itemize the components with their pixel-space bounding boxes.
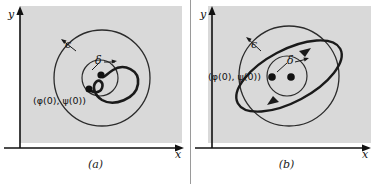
panel-b-epsilon-label: ϵ <box>251 38 257 51</box>
figure-container: ϵ δ (φ(0), ψ(0)) y x (a) <box>0 0 382 184</box>
panel-a: ϵ δ (φ(0), ψ(0)) y x (a) <box>0 0 191 184</box>
panel-a-caption: (a) <box>0 158 191 171</box>
panel-b-caption: (b) <box>191 158 382 171</box>
panel-b-graphic: ϵ δ (φ(0), ψ(0)) <box>191 0 382 160</box>
panel-a-equilibrium-point <box>97 71 104 78</box>
panel-b-initial-point-dot <box>268 73 276 81</box>
panel-b-equilibrium-point <box>287 73 295 81</box>
panel-a-delta-label: δ <box>95 54 102 67</box>
panel-a-epsilon-label: ϵ <box>65 38 71 51</box>
panel-b-initial-point-label: (φ(0), ψ(0)) <box>208 71 261 82</box>
panel-a-initial-point-dot <box>85 85 92 92</box>
panel-b-delta-label: δ <box>287 54 294 67</box>
panel-a-y-axis-label: y <box>8 8 14 21</box>
panel-a-graphic: ϵ δ (φ(0), ψ(0)) <box>0 0 191 160</box>
panel-a-initial-point-label: (φ(0), ψ(0)) <box>33 95 86 106</box>
panel-b-y-axis-label: y <box>200 8 206 21</box>
panel-b: ϵ δ (φ(0), ψ(0)) y x (b) <box>191 0 382 184</box>
